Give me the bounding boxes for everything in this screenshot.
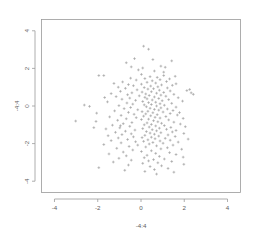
data-point: [106, 101, 109, 104]
data-point: [169, 139, 172, 142]
data-point: [176, 114, 179, 117]
x-tick-label: -4: [52, 204, 58, 211]
data-point: [134, 140, 137, 143]
data-point: [160, 84, 163, 87]
data-point: [140, 118, 143, 121]
y-tick-label: 4: [23, 29, 30, 33]
data-point: [121, 133, 124, 136]
data-point: [172, 109, 175, 112]
data-point: [148, 143, 151, 146]
data-point: [128, 125, 131, 128]
data-point: [165, 95, 168, 98]
data-point: [154, 137, 157, 140]
data-point: [132, 135, 135, 138]
data-point: [105, 128, 108, 131]
data-point: [148, 94, 151, 97]
data-point: [146, 98, 149, 101]
data-point: [174, 75, 177, 78]
data-point: [146, 122, 149, 125]
data-point: [157, 120, 160, 123]
data-point: [110, 92, 113, 95]
data-point: [92, 126, 95, 129]
data-point: [160, 122, 163, 125]
data-point: [171, 84, 174, 87]
data-point: [148, 126, 151, 129]
data-point: [173, 121, 176, 124]
data-point: [160, 164, 163, 167]
data-point: [126, 102, 129, 105]
data-point: [155, 173, 158, 176]
data-point: [155, 129, 158, 132]
data-point: [125, 154, 128, 157]
data-point: [149, 85, 152, 88]
data-point: [182, 156, 185, 159]
data-point: [130, 66, 133, 69]
data-point: [144, 77, 147, 80]
data-point: [135, 116, 138, 119]
data-point: [118, 104, 121, 107]
data-point: [128, 97, 131, 100]
data-point: [147, 101, 150, 104]
data-point: [152, 158, 155, 161]
data-point: [152, 58, 155, 61]
data-point: [167, 134, 170, 137]
data-point: [127, 164, 130, 167]
data-point: [175, 106, 178, 109]
data-point: [144, 170, 147, 173]
data-point: [162, 142, 165, 145]
data-point: [158, 155, 161, 158]
data-point: [145, 105, 148, 108]
data-point: [164, 137, 167, 140]
data-point: [83, 104, 86, 107]
data-point: [115, 95, 118, 98]
data-point: [150, 103, 153, 106]
data-point: [133, 113, 136, 116]
data-point: [136, 88, 139, 91]
data-point: [157, 97, 160, 100]
data-point: [180, 148, 183, 151]
data-point: [156, 76, 159, 79]
data-point: [152, 141, 155, 144]
data-point: [170, 102, 173, 105]
data-point: [127, 111, 130, 114]
data-point: [173, 93, 176, 96]
data-point: [126, 138, 129, 141]
x-tick-label: 4: [226, 204, 230, 211]
scatter-points-layer: [74, 45, 194, 176]
y-axis-title: -4:4: [13, 100, 20, 111]
data-point: [144, 113, 147, 116]
data-point: [182, 117, 185, 120]
data-point: [95, 112, 98, 115]
data-point: [163, 104, 166, 107]
data-point: [177, 141, 180, 144]
x-tick-label: 2: [183, 204, 187, 211]
data-point: [97, 166, 100, 169]
data-point: [150, 149, 153, 152]
data-point: [154, 116, 157, 119]
data-point: [155, 145, 158, 148]
data-point: [127, 83, 130, 86]
data-point: [164, 66, 167, 69]
data-point: [131, 103, 134, 106]
y-axis: -4-2024: [23, 29, 35, 184]
data-point: [153, 108, 156, 111]
data-point: [153, 133, 156, 136]
data-point: [149, 165, 152, 168]
data-point: [132, 84, 135, 87]
data-point: [124, 130, 127, 133]
data-point: [131, 91, 134, 94]
data-point: [130, 132, 133, 135]
data-point: [150, 136, 153, 139]
data-point: [162, 111, 165, 114]
data-point: [154, 82, 157, 85]
scatter-plot-figure: -4-2024 -4-2024 -4:4 -4:4: [0, 0, 254, 239]
data-point: [153, 168, 156, 171]
data-point: [125, 61, 128, 64]
data-point: [147, 118, 150, 121]
data-point: [147, 110, 150, 113]
data-point: [165, 128, 168, 131]
data-point: [159, 117, 162, 120]
data-point: [141, 100, 144, 103]
data-point: [161, 99, 164, 102]
data-point: [187, 138, 190, 141]
